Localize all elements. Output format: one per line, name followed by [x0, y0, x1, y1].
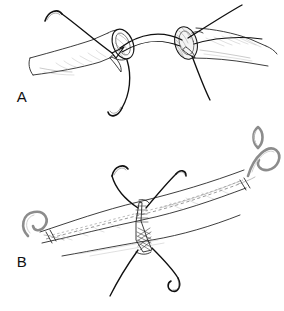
panel-b-label: B	[17, 253, 28, 270]
figure-background	[0, 0, 284, 311]
anastomosis-figure: A	[0, 0, 284, 311]
figure-root: A	[0, 0, 284, 311]
panel-a-label: A	[17, 88, 28, 105]
